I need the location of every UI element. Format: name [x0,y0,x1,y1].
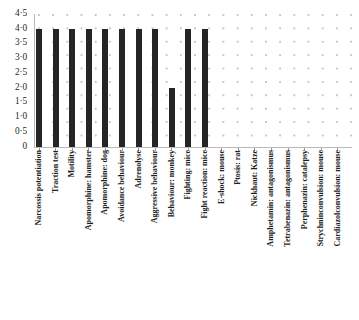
x-tick-label: Tetrabenazin: antagonismus [284,150,292,247]
x-tick-label: Ptosis: rat [234,150,242,185]
bar [136,29,142,147]
x-axis-tick-labels: Narcossis potentiationTraction testMotil… [34,150,352,318]
bar [53,29,59,147]
x-tick-label: Aggressive behaviour [151,150,159,223]
bar [86,29,92,147]
x-tick-label: Fight reaction: mice [201,150,209,219]
x-tick-label: Adrenolyse [135,150,143,188]
bar [202,29,208,147]
bar [119,29,125,147]
y-tick-label: 1·0 [15,112,27,121]
bar [102,29,108,147]
x-tick-label: Avoidance behaviour [118,150,126,222]
bar [169,88,175,147]
x-tick-label: Nickhaut: Katze [251,150,259,206]
y-tick-label: 1·5 [15,98,27,107]
y-tick-label: 4·5 [15,9,27,18]
x-axis-spine [34,147,352,148]
y-tick-label: 3·0 [15,54,27,63]
bar [152,29,158,147]
y-tick-label: 3·5 [15,39,27,48]
x-tick-label: Cardiazolconvulsion: mouse [334,150,342,247]
y-tick-label: 2·5 [15,68,27,77]
y-axis-spine [34,14,35,148]
bar [69,29,75,147]
bar [36,29,42,147]
bar [185,29,191,147]
x-tick-label: E-shock: mouse [218,150,226,204]
y-tick-label: 0·5 [15,127,27,136]
y-tick-label: 4·0 [15,24,27,33]
x-tick-label: Apomorphine: dog [101,150,109,215]
x-tick-label: Behaviour: monkey [168,150,176,217]
bar-series [34,14,352,148]
x-tick-label: Narcossis potentiation [35,150,43,225]
plot-area [34,14,352,148]
x-tick-label: Traction test [52,150,60,193]
y-axis-tick-labels: 00·51·01·52·02·53·03·54·04·5 [0,14,31,148]
x-tick-label: Amphetamin: antagonismus [267,150,275,247]
x-tick-label: Perphenazin: catalepsy [301,150,309,229]
bar-chart-figure: 00·51·01·52·02·53·03·54·04·5 Narcossis p… [0,0,359,320]
y-tick-label: 2·0 [15,83,27,92]
x-tick-label: Motility [68,150,76,177]
x-tick-label: Apomorphine: hamster [85,150,93,230]
y-tick-label: 0 [23,142,28,151]
x-tick-label: Fighting: mice [184,150,192,199]
x-tick-label: Strychninconvulsion: mouse [317,150,325,247]
